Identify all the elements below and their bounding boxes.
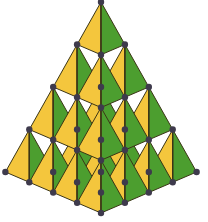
tetrahedron-right-face — [125, 45, 149, 98]
vertex-dot — [122, 200, 128, 206]
vertex-dot — [50, 137, 56, 143]
vertex-dot — [98, 0, 104, 5]
vertex-dot — [50, 84, 56, 90]
vertex-dot — [122, 179, 128, 185]
tetrahedral-pyramid-diagram — [0, 0, 208, 222]
tetrahedron-right-face — [149, 87, 173, 140]
tetrahedron-right-face — [173, 130, 197, 183]
tetrahedron-left-face — [29, 87, 53, 140]
vertex-dot — [26, 126, 32, 132]
vertex-dot — [98, 137, 104, 143]
vertex-dot — [122, 126, 128, 132]
vertex-dot — [98, 84, 104, 90]
vertex-dot — [122, 94, 128, 100]
vertex-dot — [98, 157, 104, 163]
vertex-dot — [170, 179, 176, 185]
vertex-dot — [74, 179, 80, 185]
vertex-dot — [146, 169, 152, 175]
vertex-dot — [146, 84, 152, 90]
vertex-dot — [50, 169, 56, 175]
tetrahedron-right-face — [101, 2, 125, 55]
vertex-dot — [122, 41, 128, 47]
tetrahedron-left-face — [53, 45, 77, 98]
vertex-dot — [98, 104, 104, 110]
vertex-dot — [74, 94, 80, 100]
vertex-dot — [170, 126, 176, 132]
vertex-dot — [98, 169, 104, 175]
vertex-dot — [74, 200, 80, 206]
vertex-dot — [98, 52, 104, 58]
vertex-dot — [146, 137, 152, 143]
vertex-dot — [74, 41, 80, 47]
vertex-dot — [98, 189, 104, 195]
vertex-dot — [98, 210, 104, 216]
tetrahedron-left-face — [5, 130, 29, 183]
vertex-dot — [26, 179, 32, 185]
vertex-dot — [74, 147, 80, 153]
vertex-dot — [74, 126, 80, 132]
vertex-dot — [2, 169, 8, 175]
vertex-dot — [50, 189, 56, 195]
vertex-dot — [122, 147, 128, 153]
vertex-dot — [193, 169, 199, 175]
vertex-dot — [146, 189, 152, 195]
tetrahedron-left-face — [77, 2, 101, 55]
